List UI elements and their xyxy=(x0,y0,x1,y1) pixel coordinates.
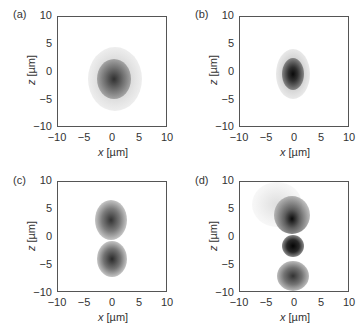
x-axis-label: x [µm] xyxy=(98,146,128,158)
x-tick: 0 xyxy=(279,131,309,143)
x-axis-label: x [µm] xyxy=(280,311,310,323)
x-tick: −5 xyxy=(251,131,281,143)
x-tick: −5 xyxy=(69,131,99,143)
x-tick: −10 xyxy=(42,131,72,143)
panel-d: (d) 10 5 0 −5 −10 z [µm] −10 −5 0 5 10 x… xyxy=(182,166,364,335)
x-tick: 10 xyxy=(152,131,182,143)
x-tick: 10 xyxy=(334,296,364,308)
x-tick: 10 xyxy=(334,131,364,143)
plot-area xyxy=(239,16,349,127)
density-core xyxy=(282,58,304,90)
y-axis-label: z [µm] xyxy=(207,55,219,85)
x-tick: −5 xyxy=(69,296,99,308)
y-axis-label: z [µm] xyxy=(25,55,37,85)
x-tick: −10 xyxy=(224,296,254,308)
y-tick: 10 xyxy=(22,9,52,21)
x-tick: 5 xyxy=(306,131,336,143)
x-tick: 0 xyxy=(97,131,127,143)
x-tick: 10 xyxy=(152,296,182,308)
y-axis-label: z [µm] xyxy=(25,221,37,251)
density-spot-middle xyxy=(282,235,304,257)
y-tick: −5 xyxy=(204,93,234,105)
y-tick: 5 xyxy=(204,37,234,49)
x-tick: −10 xyxy=(42,296,72,308)
density-spot-upper xyxy=(95,200,127,240)
y-tick: 5 xyxy=(22,37,52,49)
panel-c: (c) 10 5 0 −5 −10 z [µm] −10 −5 0 5 10 x… xyxy=(0,166,182,335)
y-tick: 5 xyxy=(204,202,234,214)
y-tick: 10 xyxy=(22,174,52,186)
y-tick: −5 xyxy=(22,93,52,105)
x-tick: 5 xyxy=(124,296,154,308)
density-spot-lower xyxy=(97,241,127,277)
x-axis-label: x [µm] xyxy=(98,311,128,323)
density-spot-lower xyxy=(277,261,309,291)
y-tick: 5 xyxy=(22,202,52,214)
density-core xyxy=(97,59,131,99)
x-axis-label: x [µm] xyxy=(280,146,310,158)
x-tick: 0 xyxy=(279,296,309,308)
plot-area xyxy=(57,181,167,292)
y-axis-label: z [µm] xyxy=(207,221,219,251)
y-tick: −5 xyxy=(22,258,52,270)
density-spot-upper xyxy=(274,196,310,234)
panel-a: (a) 10 5 0 −5 −10 z [µm] −10 −5 0 5 10 x… xyxy=(0,0,182,168)
x-tick: −5 xyxy=(251,296,281,308)
x-tick: 0 xyxy=(97,296,127,308)
x-tick: 5 xyxy=(124,131,154,143)
x-tick: −10 xyxy=(224,131,254,143)
y-tick: 10 xyxy=(204,9,234,21)
panel-b: (b) 10 5 0 −5 −10 z [µm] −10 −5 0 5 10 x… xyxy=(182,0,364,168)
y-tick: −5 xyxy=(204,258,234,270)
x-tick: 5 xyxy=(306,296,336,308)
plot-area xyxy=(57,16,167,127)
y-tick: 10 xyxy=(204,174,234,186)
plot-area xyxy=(239,181,349,292)
